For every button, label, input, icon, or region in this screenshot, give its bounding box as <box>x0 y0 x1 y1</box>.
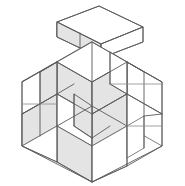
figure-container <box>0 0 185 186</box>
assembly-group <box>22 42 162 182</box>
isometric-block-diagram <box>0 0 185 186</box>
